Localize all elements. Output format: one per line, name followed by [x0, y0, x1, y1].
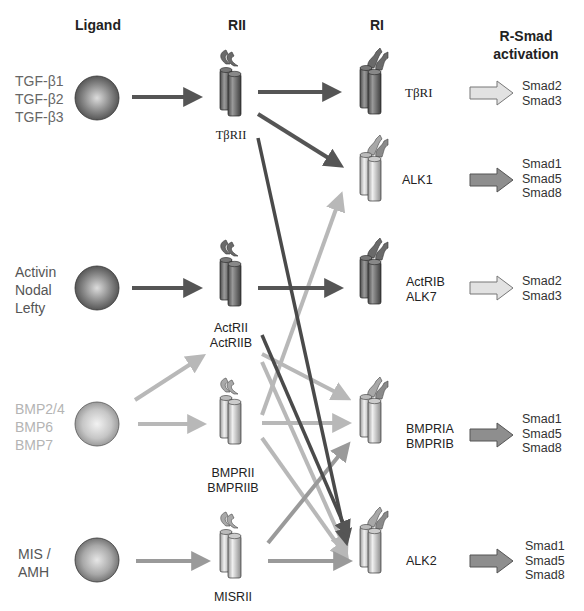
ligand-label-activin: Activin Nodal Lefty: [15, 263, 56, 317]
ligand-label-tgfb: TGF-β1 TGF-β2 TGF-β3: [15, 72, 64, 126]
ri-label-bmpria: BMPRIA BMPRIB: [406, 422, 454, 452]
smad-arrow-light-3: [470, 276, 513, 300]
receptor-tbrii-icon: [220, 50, 241, 116]
smad-label-2: Smad1 Smad5 Smad8: [522, 157, 562, 201]
header-rsmad-activation: R-Smad activation: [476, 27, 576, 63]
smad-arrow-dark-4: [470, 423, 513, 447]
arrow-bmp-to-actrii: [135, 358, 200, 400]
receptor-alk1-icon: [360, 135, 388, 201]
arrow-tbrii-to-alk1: [258, 114, 338, 164]
smad-label-4: Smad1 Smad5 Smad8: [522, 412, 562, 456]
receptor-misrii-icon: [220, 512, 241, 578]
smad-arrow-dark-2: [470, 168, 513, 192]
ri-label-actrib: ActRIB ALK7: [406, 275, 445, 305]
receptor-bmpria-icon: [360, 377, 388, 443]
ri-label-tbri: TβRI: [405, 85, 433, 100]
header-ri: RI: [362, 16, 392, 34]
receptor-actrii-icon: [220, 240, 241, 306]
receptor-alk2-icon: [360, 507, 388, 573]
receptor-actrib-icon: [360, 238, 388, 304]
ligand-ball-bmp: [75, 402, 119, 446]
rii-label-bmprii: BMPRII BMPRIIB: [198, 466, 268, 496]
rii-label-misrii: MISRII: [208, 590, 258, 605]
ligand-ball-tgfb: [75, 76, 119, 120]
smad-label-3: Smad2 Smad3: [522, 274, 562, 303]
smad-label-1: Smad2 Smad3: [522, 79, 562, 108]
rii-label-actrii: ActRII ActRIIB: [203, 321, 259, 351]
rii-label-tbrii: TβRII: [206, 128, 256, 143]
ri-label-alk2: ALK2: [406, 554, 437, 569]
ligand-label-mis: MIS / AMH: [18, 545, 51, 581]
receptor-bmprii-icon: [220, 378, 241, 444]
header-ligand: Ligand: [70, 16, 126, 34]
ri-label-alk1: ALK1: [402, 173, 433, 188]
tgf-beta-signaling-diagram: [0, 0, 584, 611]
ligand-ball-activin: [75, 266, 119, 310]
ligand-ball-mis: [75, 538, 119, 582]
arrow-actrii-to-alk2: [262, 335, 347, 532]
smad-arrow-light-1: [470, 81, 513, 105]
header-rii: RII: [222, 16, 252, 34]
arrow-bmprii-to-alk1: [262, 198, 340, 415]
arrow-tbrii-to-alk2: [258, 138, 346, 540]
receptor-tbri-icon: [360, 48, 388, 114]
ligand-label-bmp: BMP2/4 BMP6 BMP7: [15, 400, 65, 454]
smad-arrow-dark-5: [470, 549, 513, 573]
smad-label-5: Smad1 Smad5 Smad8: [525, 539, 565, 583]
